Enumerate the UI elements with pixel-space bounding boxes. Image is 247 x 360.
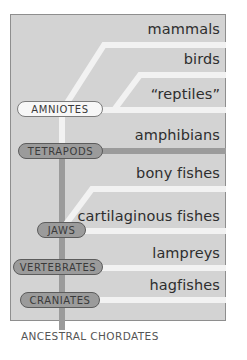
clade-vertebrates: VERTEBRATES bbox=[13, 259, 103, 275]
clade-craniates: CRANIATES bbox=[20, 292, 100, 308]
clade-amniotes: AMNIOTES bbox=[17, 101, 103, 117]
taxon-bony-fishes: bony fishes bbox=[136, 165, 220, 181]
clade-tetrapods: TETRAPODS bbox=[18, 143, 103, 159]
clade-jaws: JAWS bbox=[37, 222, 86, 238]
root-label: ANCESTRAL CHORDATES bbox=[21, 330, 159, 342]
taxon-cartilaginous-fishes: cartilaginous fishes bbox=[78, 208, 220, 224]
taxon-lampreys: lampreys bbox=[152, 245, 220, 261]
taxon-hagfishes: hagfishes bbox=[149, 277, 220, 293]
taxon-birds: birds bbox=[184, 51, 220, 67]
taxon-reptiles: “reptiles” bbox=[151, 86, 220, 102]
taxon-mammals: mammals bbox=[148, 21, 220, 37]
taxon-amphibians: amphibians bbox=[135, 127, 220, 143]
